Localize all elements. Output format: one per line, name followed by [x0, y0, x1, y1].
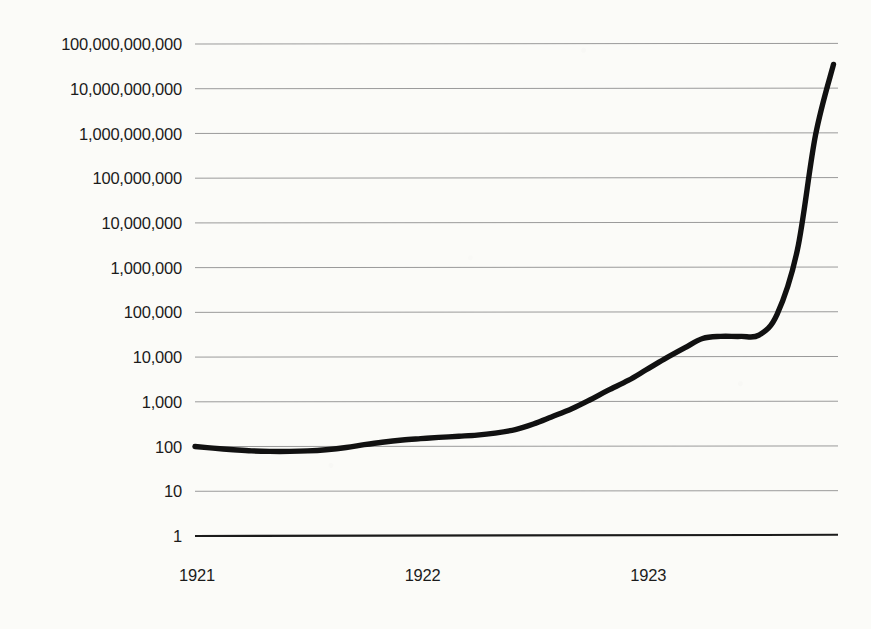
- x-axis-tick-label: 1923: [630, 566, 666, 585]
- x-axis-tick-label: 1922: [405, 566, 441, 585]
- x-axis-tick-labels: 192119221923: [0, 0, 871, 629]
- chart-figure: 100,000,000,00010,000,000,0001,000,000,0…: [0, 0, 871, 629]
- x-axis-tick-label: 1921: [179, 566, 215, 585]
